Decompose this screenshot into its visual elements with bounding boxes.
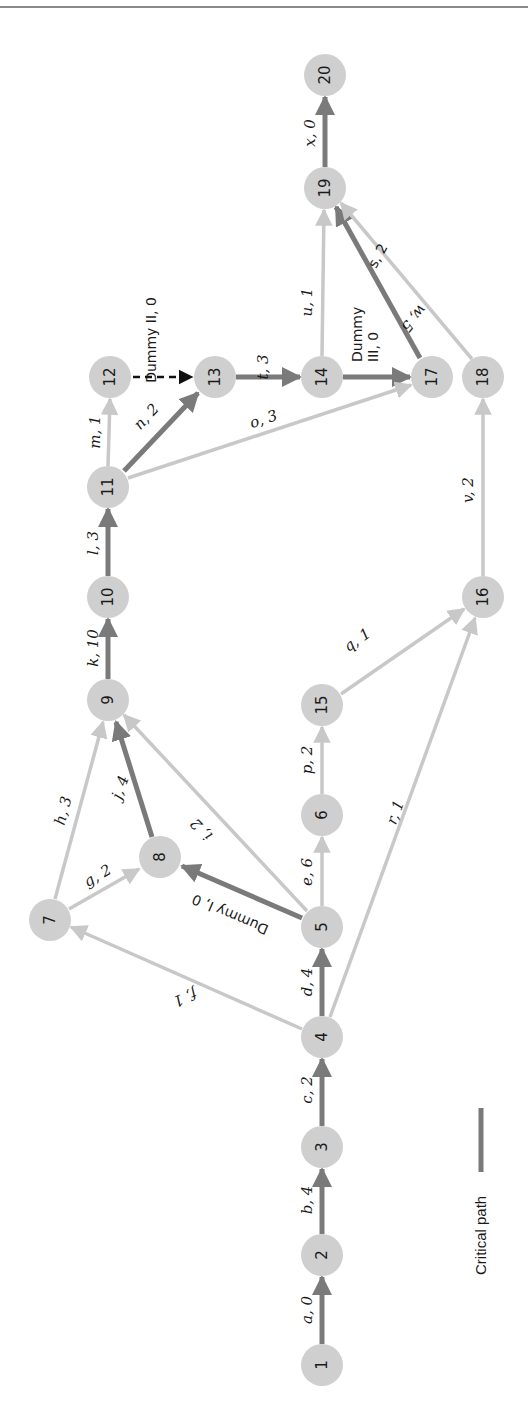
label-d: d, 4 bbox=[298, 968, 316, 997]
node-12: 12 bbox=[89, 356, 131, 398]
label-m: m, 1 bbox=[86, 415, 104, 448]
label-b: b, 4 bbox=[298, 1186, 316, 1215]
node-label: 6 bbox=[313, 810, 331, 820]
node-label: 14 bbox=[313, 367, 331, 386]
node-label: 2 bbox=[313, 1250, 331, 1260]
label-t: t, 3 bbox=[254, 354, 272, 379]
label-f: f, 1 bbox=[170, 984, 200, 1011]
node-4: 4 bbox=[301, 1016, 343, 1058]
edges bbox=[55, 97, 483, 1344]
label-dummy3-line2: III, 0 bbox=[365, 332, 381, 362]
node-15: 15 bbox=[301, 684, 343, 726]
label-h: h, 3 bbox=[51, 794, 76, 826]
label-c: c, 2 bbox=[298, 1076, 316, 1103]
node-label: 7 bbox=[41, 915, 59, 925]
node-label: 4 bbox=[313, 1032, 331, 1042]
node-16: 16 bbox=[462, 576, 504, 618]
node-10: 10 bbox=[87, 576, 129, 618]
node-label: 13 bbox=[206, 367, 224, 386]
node-label: 17 bbox=[423, 367, 441, 386]
node-label: 12 bbox=[101, 367, 119, 386]
node-label: 1 bbox=[313, 1360, 331, 1370]
label-x: x, 0 bbox=[301, 119, 319, 147]
node-13: 13 bbox=[194, 356, 236, 398]
label-p: p, 2 bbox=[298, 746, 316, 775]
network-diagram: 1 2 3 4 5 6 7 8 9 10 11 12 13 14 15 16 1… bbox=[0, 0, 528, 1422]
node-11: 11 bbox=[87, 466, 129, 508]
label-q: q, 1 bbox=[340, 624, 374, 655]
node-8: 8 bbox=[139, 836, 181, 878]
node-6: 6 bbox=[301, 794, 343, 836]
edge-q bbox=[341, 609, 464, 694]
label-i: i, 2 bbox=[187, 815, 216, 845]
label-dummy2: Dummy II, 0 bbox=[143, 297, 159, 383]
label-u: u, 1 bbox=[298, 288, 316, 317]
legend-label: Critical path bbox=[472, 1196, 489, 1275]
node-label: 18 bbox=[474, 367, 492, 386]
node-18: 18 bbox=[462, 356, 504, 398]
edge-o bbox=[128, 385, 411, 478]
edge-u bbox=[322, 210, 324, 356]
node-5: 5 bbox=[301, 906, 343, 948]
label-e: e, 6 bbox=[298, 858, 316, 886]
node-label: 8 bbox=[151, 852, 169, 862]
node-3: 3 bbox=[301, 1126, 343, 1168]
node-label: 11 bbox=[99, 477, 117, 496]
node-label: 9 bbox=[99, 695, 117, 705]
label-j: j, 4 bbox=[107, 773, 133, 804]
node-label: 16 bbox=[474, 587, 492, 606]
node-17: 17 bbox=[411, 356, 453, 398]
edge-f bbox=[71, 927, 302, 1029]
legend: Critical path bbox=[472, 1108, 489, 1275]
node-9: 9 bbox=[87, 679, 129, 721]
node-label: 15 bbox=[313, 695, 331, 714]
label-a: a, 0 bbox=[298, 1296, 316, 1324]
nodes: 1 2 3 4 5 6 7 8 9 10 11 12 13 14 15 16 1… bbox=[29, 54, 504, 1386]
node-20: 20 bbox=[304, 54, 346, 96]
label-l: l, 3 bbox=[84, 531, 102, 555]
node-2: 2 bbox=[301, 1234, 343, 1276]
label-n: n, 2 bbox=[130, 400, 163, 433]
node-label: 10 bbox=[99, 587, 117, 606]
node-label: 20 bbox=[316, 65, 334, 84]
label-r: r, 1 bbox=[383, 798, 408, 827]
edge-m bbox=[108, 399, 110, 466]
node-1: 1 bbox=[301, 1344, 343, 1386]
node-19: 19 bbox=[304, 167, 346, 209]
node-label: 3 bbox=[313, 1142, 331, 1152]
node-7: 7 bbox=[29, 899, 71, 941]
node-14: 14 bbox=[301, 356, 343, 398]
activity-labels: a, 0 b, 4 c, 2 d, 4 e, 6 p, 2 f, 1 g, 2 … bbox=[51, 119, 477, 1324]
node-label: 19 bbox=[316, 178, 334, 197]
label-k: k, 10 bbox=[84, 629, 102, 667]
node-label: 5 bbox=[313, 922, 331, 932]
label-dummy3-line1: Dummy bbox=[349, 307, 365, 362]
label-v: v, 2 bbox=[459, 477, 477, 503]
